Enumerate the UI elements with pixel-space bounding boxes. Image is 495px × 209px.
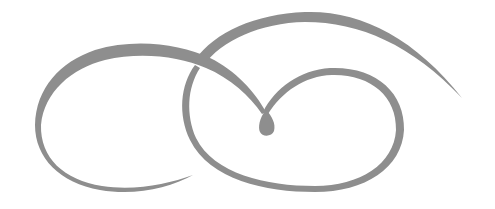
right-loop-swash (182, 65, 404, 192)
left-loop-swash (35, 44, 266, 192)
center-teardrop (259, 110, 274, 136)
flourish-ornament (0, 0, 495, 209)
